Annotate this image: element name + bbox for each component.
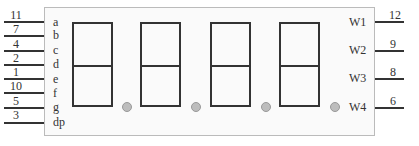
pin-number: 5 <box>4 95 28 107</box>
pin-number: 11 <box>4 9 28 21</box>
segment-label: a <box>53 16 58 28</box>
decimal-point-4 <box>330 102 340 112</box>
digit-2 <box>140 22 181 107</box>
pin-number: 7 <box>4 23 28 35</box>
digit-select-label: W3 <box>349 72 366 84</box>
pin-number: 2 <box>4 52 28 64</box>
segment-label: d <box>53 58 59 70</box>
pin-line <box>4 92 44 94</box>
segment-label: f <box>53 87 57 99</box>
segment-label: e <box>53 73 58 85</box>
decimal-point-3 <box>261 102 271 112</box>
digit-1 <box>72 22 113 107</box>
segment-g <box>212 65 249 67</box>
decimal-point-1 <box>122 102 132 112</box>
pin-number: 8 <box>384 66 402 78</box>
pin-number: 6 <box>384 95 402 107</box>
digit-select-label: W1 <box>349 16 366 28</box>
digit-select-label: W2 <box>349 44 366 56</box>
segment-g <box>281 65 318 67</box>
pin-line <box>4 122 44 124</box>
pin-line <box>4 35 44 37</box>
pin-number: 9 <box>384 38 402 50</box>
segment-g <box>74 65 111 67</box>
digit-select-label: W4 <box>349 101 366 113</box>
segment-label: b <box>53 29 59 41</box>
segment-label: dp <box>53 116 65 128</box>
segment-label: g <box>53 101 59 113</box>
pin-number: 3 <box>4 109 28 121</box>
digit-4 <box>279 22 320 107</box>
decimal-point-2 <box>191 102 201 112</box>
pin-number: 10 <box>4 80 28 92</box>
pin-number: 12 <box>386 9 404 21</box>
pin-number: 4 <box>4 38 28 50</box>
segment-g <box>142 65 179 67</box>
segment-label: c <box>53 44 58 56</box>
digit-3 <box>210 22 251 107</box>
pin-number: 1 <box>4 66 28 78</box>
